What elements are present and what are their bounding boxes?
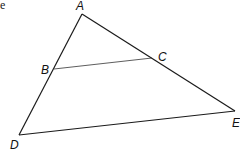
- label-b: B: [41, 63, 49, 77]
- label-a: A: [75, 0, 84, 13]
- triangle-diagram: e A B C D E: [0, 0, 240, 150]
- label-e: E: [232, 116, 240, 130]
- label-d: D: [10, 138, 19, 150]
- side-de: [19, 111, 235, 135]
- cropped-text-fragment: e: [0, 0, 5, 12]
- side-ad: [19, 14, 82, 135]
- label-c: C: [158, 50, 167, 64]
- segment-bc: [54, 58, 152, 69]
